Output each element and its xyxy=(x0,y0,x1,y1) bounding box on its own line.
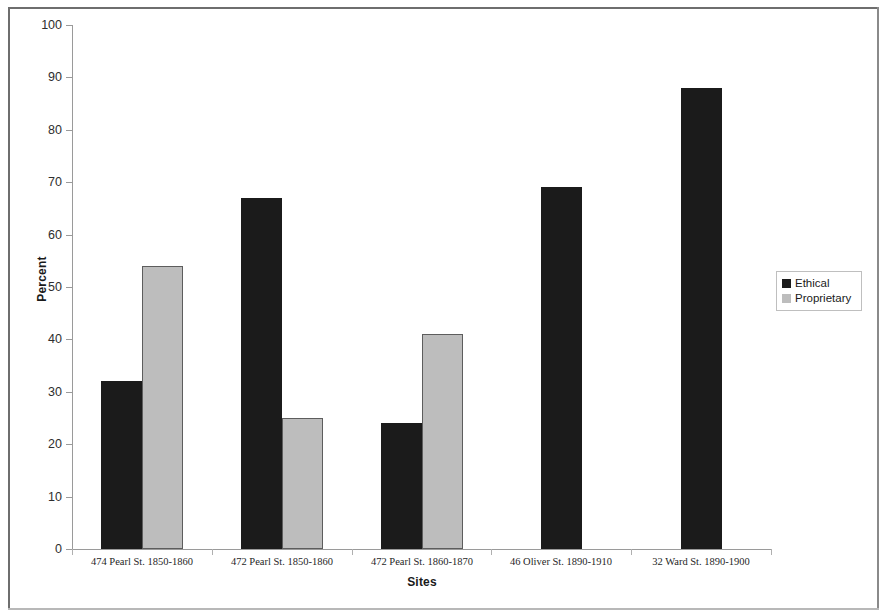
y-axis-tick-label: 30 xyxy=(26,386,62,399)
y-axis-tick xyxy=(66,130,73,131)
bar-proprietary-2 xyxy=(282,418,323,549)
y-axis-tick-label: 40 xyxy=(26,333,62,346)
bar-proprietary-1 xyxy=(142,266,183,549)
x-axis-category-label: 472 Pearl St. 1860-1870 xyxy=(352,556,492,568)
y-axis-tick-label: 0 xyxy=(26,543,62,556)
x-axis-category-label: 474 Pearl St. 1850-1860 xyxy=(72,556,212,568)
chart-legend: Ethical Proprietary xyxy=(776,271,862,311)
x-axis-title: Sites xyxy=(0,575,844,589)
x-axis-tick xyxy=(212,549,213,555)
y-axis-tick-label: 80 xyxy=(26,124,62,137)
y-axis-tick xyxy=(66,235,73,236)
y-axis-tick xyxy=(66,339,73,340)
y-axis-tick-label: 10 xyxy=(26,491,62,504)
x-axis-tick xyxy=(771,549,772,555)
x-axis-tick xyxy=(72,549,73,555)
y-axis-tick xyxy=(66,182,73,183)
legend-item-ethical: Ethical xyxy=(782,276,857,291)
x-axis-line xyxy=(72,549,771,550)
bar-ethical-2 xyxy=(241,198,282,549)
y-axis-tick xyxy=(66,287,73,288)
y-axis-tick-label: 100 xyxy=(26,19,62,32)
y-axis-tick xyxy=(66,392,73,393)
legend-swatch-ethical-icon xyxy=(782,279,791,288)
legend-swatch-proprietary-icon xyxy=(782,294,791,303)
x-axis-category-label: 32 Ward St. 1890-1900 xyxy=(631,556,771,568)
x-axis-tick xyxy=(491,549,492,555)
legend-label-proprietary: Proprietary xyxy=(795,293,851,305)
x-axis-tick xyxy=(352,549,353,555)
y-axis-tick xyxy=(66,497,73,498)
y-axis-title: Percent xyxy=(35,234,49,324)
y-axis-tick xyxy=(66,25,73,26)
bar-ethical-3 xyxy=(381,423,422,549)
y-axis-tick-label: 70 xyxy=(26,176,62,189)
y-axis-tick xyxy=(66,444,73,445)
legend-label-ethical: Ethical xyxy=(795,278,830,290)
chart-figure: 0102030405060708090100 474 Pearl St. 185… xyxy=(0,0,884,613)
bar-ethical-5 xyxy=(681,88,722,549)
legend-item-proprietary: Proprietary xyxy=(782,291,857,306)
bar-ethical-1 xyxy=(101,381,142,549)
x-axis-category-label: 472 Pearl St. 1850-1860 xyxy=(212,556,352,568)
x-axis-tick xyxy=(631,549,632,555)
y-axis-tick-label: 90 xyxy=(26,71,62,84)
y-axis-tick xyxy=(66,77,73,78)
bar-proprietary-3 xyxy=(422,334,463,549)
bar-ethical-4 xyxy=(541,187,582,549)
y-axis-tick-label: 20 xyxy=(26,438,62,451)
plot-area: 0102030405060708090100 474 Pearl St. 185… xyxy=(0,0,884,613)
x-axis-category-label: 46 Oliver St. 1890-1910 xyxy=(491,556,631,568)
